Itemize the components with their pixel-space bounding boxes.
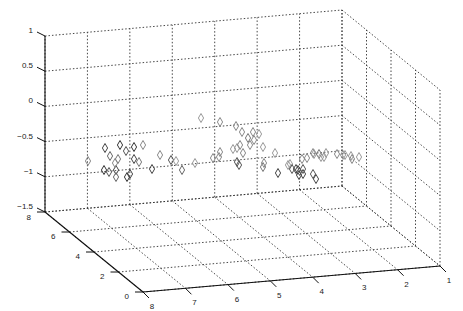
diamond-marker — [260, 143, 265, 152]
diamond-marker — [106, 168, 111, 177]
data-points — [85, 114, 361, 184]
z-tick-label: −1 — [24, 167, 34, 176]
diamond-marker — [356, 153, 361, 162]
diamond-marker — [198, 114, 203, 123]
diamond-marker — [102, 144, 107, 153]
diamond-marker — [131, 155, 136, 164]
diamond-marker — [168, 156, 173, 165]
diamond-marker — [251, 136, 256, 145]
diamond-marker — [240, 149, 245, 158]
y-tick-label: 2 — [100, 272, 105, 281]
z-tick-label: 1 — [29, 26, 34, 35]
diamond-marker — [101, 166, 106, 175]
diamond-marker — [179, 166, 184, 175]
diamond-marker — [304, 154, 309, 163]
z-tick-label: −0.5 — [17, 132, 33, 141]
x-tick-label: 4 — [319, 287, 324, 296]
x-tick-label: 1 — [447, 276, 452, 285]
z-tick-label: −1.5 — [17, 202, 33, 211]
y-tick-label: 0 — [125, 292, 130, 301]
axis-lines — [45, 36, 440, 292]
y-tick-label: 4 — [76, 252, 81, 261]
diamond-marker — [239, 128, 244, 137]
x-tick-label: 2 — [404, 280, 409, 289]
y-tick-label: 6 — [51, 232, 56, 241]
x-tick-label: 5 — [277, 291, 282, 300]
diamond-marker — [85, 157, 90, 166]
diamond-marker — [275, 169, 280, 178]
diamond-marker — [299, 155, 304, 164]
diamond-marker — [157, 151, 162, 160]
x-tick-label: 7 — [192, 298, 197, 307]
diamond-marker — [192, 159, 197, 168]
diamond-marker — [173, 157, 178, 166]
diamond-marker — [272, 149, 277, 158]
diamond-marker — [117, 141, 122, 150]
diamond-marker — [140, 141, 145, 150]
diamond-marker — [115, 155, 120, 164]
diamond-marker — [149, 165, 154, 174]
diamond-marker — [250, 128, 255, 137]
z-tick-label: 0.5 — [22, 61, 34, 70]
x-tick-label: 6 — [235, 295, 240, 304]
diamond-marker — [217, 118, 222, 127]
3d-scatter-plot: 10.50−0.5−1−1.58642087654321 — [0, 0, 463, 311]
x-tick-label: 3 — [362, 283, 367, 292]
tick-labels: 10.50−0.5−1−1.58642087654321 — [17, 26, 452, 311]
diamond-marker — [342, 151, 347, 160]
diamond-marker — [131, 143, 136, 152]
x-tick-label: 8 — [150, 302, 155, 311]
z-tick-label: 0 — [29, 96, 34, 105]
diamond-marker — [136, 158, 141, 167]
y-tick-label: 8 — [27, 213, 32, 222]
diamond-marker — [107, 152, 112, 161]
diamond-marker — [233, 122, 238, 131]
diamond-marker — [123, 147, 128, 156]
